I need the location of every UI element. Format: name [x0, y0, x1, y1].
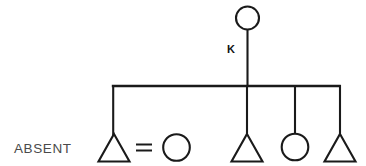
individual-g2-spouse-1-circle-icon[interactable] — [163, 134, 190, 161]
pedigree-canvas: K ABSENT — [0, 0, 366, 166]
proband-marker-label: K — [227, 43, 235, 55]
individual-g2-child-2-triangle-icon[interactable] — [232, 134, 263, 162]
pedigree-chart: K ABSENT — [0, 0, 366, 166]
absent-label: ABSENT — [14, 141, 72, 156]
individual-g2-child-1-triangle-icon[interactable] — [99, 134, 130, 162]
individual-g1-mother-circle-icon[interactable] — [236, 7, 259, 30]
individual-g2-child-3-circle-icon[interactable] — [282, 134, 309, 161]
individual-g2-child-4-triangle-icon[interactable] — [325, 134, 356, 162]
